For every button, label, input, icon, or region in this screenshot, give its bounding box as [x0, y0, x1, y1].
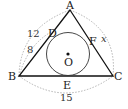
label-f: F: [89, 35, 97, 48]
label-a: A: [65, 0, 75, 12]
label-d: D: [48, 27, 57, 40]
label-c: C: [114, 70, 122, 83]
length-ab: 12: [27, 28, 40, 39]
length-bd: 8: [27, 44, 33, 55]
label-e: E: [63, 79, 71, 92]
triangle-incircle-diagram: A B C D E F O 12 8 15 x: [0, 0, 128, 109]
label-o: O: [64, 56, 73, 69]
label-b: B: [8, 70, 16, 83]
length-ac: x: [101, 33, 107, 44]
length-bc: 15: [60, 92, 73, 103]
